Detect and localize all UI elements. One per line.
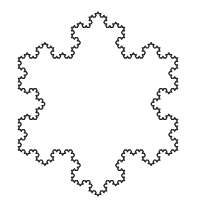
koch-snowflake-figure xyxy=(0,0,199,209)
snowflake-outline xyxy=(18,12,177,196)
